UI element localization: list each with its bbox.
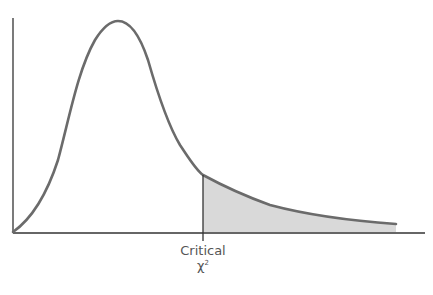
chi-square-label: χ2 <box>163 258 243 273</box>
critical-label: Critical <box>163 243 243 258</box>
chi-superscript: 2 <box>205 259 209 267</box>
rejection-region <box>203 175 396 232</box>
chi-symbol: χ <box>197 258 205 273</box>
